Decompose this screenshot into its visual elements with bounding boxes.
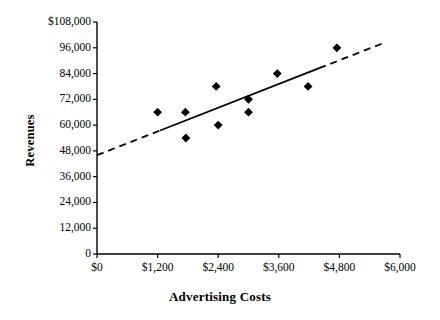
scatter-chart-figure: Revenues $108,00096,00084,00072,00060,00…: [0, 0, 440, 320]
trend-line-dashed-segment: [97, 130, 160, 155]
trend-line: [97, 43, 382, 155]
data-point-marker: [214, 121, 223, 130]
data-point-marker: [181, 108, 190, 117]
trend-line-dashed-segment: [319, 43, 382, 68]
data-point-marker: [212, 82, 221, 91]
trend-line-solid-segment: [160, 68, 319, 130]
data-point-markers: [153, 43, 341, 142]
data-point-marker: [244, 108, 253, 117]
plot-canvas: [0, 0, 440, 320]
data-point-marker: [304, 82, 313, 91]
data-point-marker: [181, 134, 190, 143]
data-point-marker: [153, 108, 162, 117]
x-axis-title: Advertising Costs: [0, 289, 440, 305]
data-point-marker: [273, 69, 282, 78]
data-point-marker: [332, 43, 341, 52]
